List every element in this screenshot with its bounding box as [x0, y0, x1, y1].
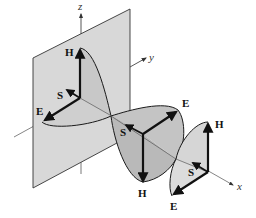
e-label-2: E	[182, 97, 189, 109]
e-label-3: E	[170, 200, 177, 212]
em-wave-diagram: z y x H S E H S E H S E	[0, 0, 256, 218]
h-label-3: H	[215, 118, 224, 130]
y-axis-negative	[14, 126, 34, 137]
y-axis	[130, 58, 146, 67]
y-axis-label: y	[148, 51, 154, 63]
h-label-2: H	[138, 187, 147, 199]
s-label-3: S	[188, 166, 194, 178]
x-axis-label: x	[236, 180, 242, 192]
s-label-1: S	[57, 89, 63, 101]
h-label-1: H	[65, 46, 74, 58]
s-label-2: S	[120, 126, 126, 138]
e-label-1: E	[36, 105, 43, 117]
z-axis-label: z	[77, 0, 83, 12]
